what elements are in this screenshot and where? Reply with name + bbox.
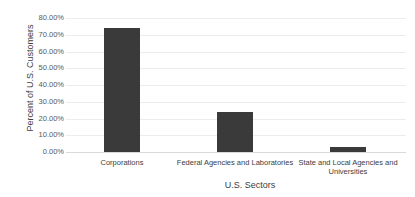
y-tick-label: 60.00%: [39, 48, 64, 56]
bar-federal-agencies-and-laboratories: [217, 112, 253, 152]
x-category-label: State and Local Agencies and Universitie…: [298, 158, 398, 176]
gridline: [66, 18, 406, 19]
y-tick-label: 50.00%: [39, 64, 64, 72]
y-tick-label: 80.00%: [39, 14, 64, 22]
y-tick-label: 20.00%: [39, 115, 64, 123]
x-axis-label: U.S. Sectors: [200, 180, 300, 190]
gridline: [66, 152, 406, 153]
y-tick-label: 0.00%: [43, 148, 64, 156]
y-tick-label: 10.00%: [39, 131, 64, 139]
bar-chart: 0.00%10.00%20.00%30.00%40.00%50.00%60.00…: [0, 0, 415, 197]
y-axis-label: Percent of U.S. Customers: [25, 16, 35, 141]
y-tick-label: 70.00%: [39, 31, 64, 39]
x-category-label: Federal Agencies and Laboratories: [175, 158, 295, 167]
bar-corporations: [104, 28, 140, 152]
x-category-label: Corporations: [82, 158, 162, 167]
bar-state-and-local-agencies-and-universities: [330, 147, 366, 152]
y-tick-label: 30.00%: [39, 98, 64, 106]
y-tick-label: 40.00%: [39, 81, 64, 89]
